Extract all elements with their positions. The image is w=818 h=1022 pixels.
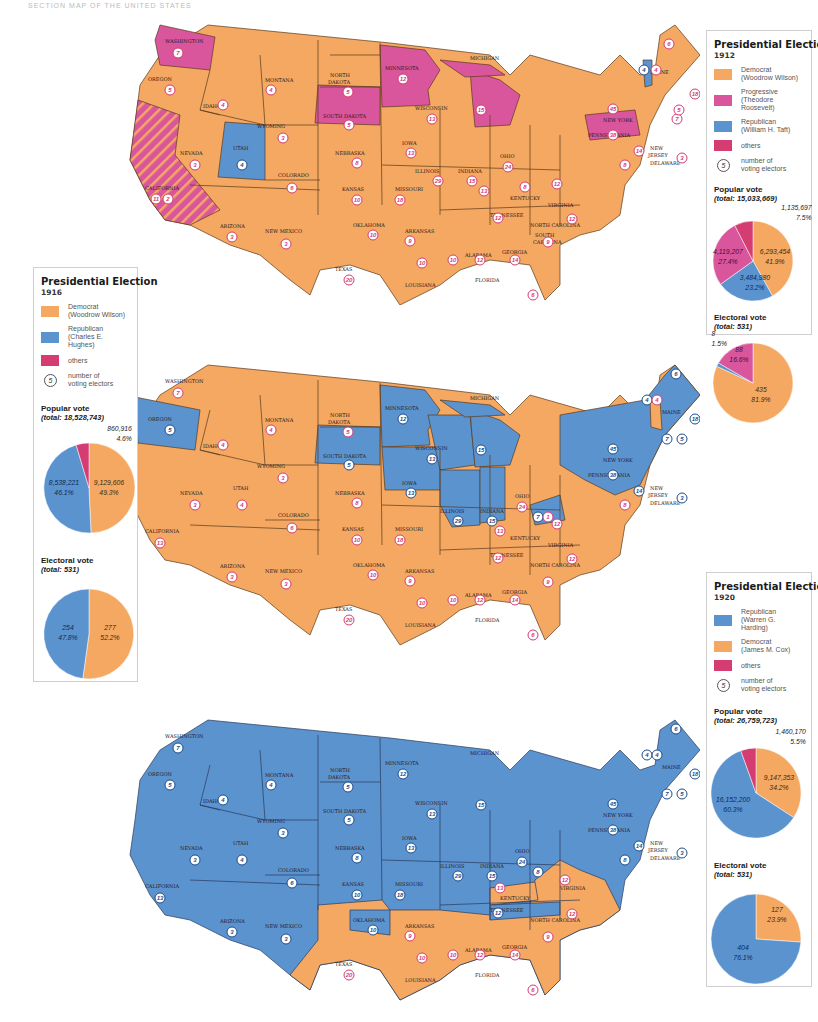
svg-text:45: 45 — [609, 106, 617, 112]
legend-sublabel: (Charles E. Hughes) — [68, 333, 130, 349]
page-header: SECTION MAP OF THE UNITED STATES — [28, 2, 192, 9]
svg-text:10: 10 — [419, 600, 426, 606]
legend-item-progressive: Progressive(Theodore Roosevelt) — [714, 88, 804, 112]
svg-text:KANSAS: KANSAS — [342, 526, 365, 532]
svg-text:13: 13 — [429, 456, 436, 462]
svg-text:13: 13 — [497, 885, 504, 891]
svg-text:15: 15 — [478, 107, 485, 113]
svg-text:KENTUCKY: KENTUCKY — [510, 195, 541, 201]
electoral-vote-pie-1920: 12723.9% 40476.1% — [714, 883, 804, 983]
legend-label: others — [68, 357, 87, 365]
pie-label: 49.3% — [89, 488, 128, 498]
svg-text:12: 12 — [569, 216, 576, 222]
svg-text:15: 15 — [489, 873, 496, 879]
svg-text:IOWA: IOWA — [402, 480, 417, 486]
others-swatch — [714, 660, 732, 671]
svg-text:INDIANA: INDIANA — [458, 168, 482, 174]
svg-text:13: 13 — [157, 895, 164, 901]
svg-text:4: 4 — [641, 67, 646, 73]
svg-text:4: 4 — [239, 502, 244, 508]
svg-text:10: 10 — [354, 197, 361, 203]
svg-text:UTAH: UTAH — [233, 840, 249, 846]
popular-vote-title: Popular vote — [41, 404, 130, 413]
legend-item-republican: Republican(Warren G. Harding) — [714, 608, 804, 632]
svg-text:OHIO: OHIO — [515, 493, 530, 499]
svg-text:LOUISIANA: LOUISIANA — [405, 282, 436, 288]
svg-text:MONTANA: MONTANA — [265, 417, 294, 423]
svg-text:ILLINOIS: ILLINOIS — [440, 863, 465, 869]
legend-title: Presidential Election — [714, 39, 804, 50]
popular-vote-pie-1912: 1,135,6977.5% 6,293,45441.9% 3,484,98023… — [714, 207, 804, 299]
svg-text:COLORADO: COLORADO — [278, 512, 309, 518]
svg-text:DELAWARE: DELAWARE — [650, 160, 681, 166]
svg-text:10: 10 — [450, 952, 457, 958]
svg-text:JERSEY: JERSEY — [647, 847, 668, 854]
electoral-vote-pie-1912: 81.5% 8816.6% 43581.9% — [714, 335, 804, 405]
pie-label: 277 — [97, 623, 123, 633]
svg-text:NEW YORK: NEW YORK — [603, 812, 633, 818]
svg-text:MISSOURI: MISSOURI — [395, 526, 423, 532]
pie-label: 4.6% — [85, 434, 132, 444]
legend-label: Republican — [68, 325, 130, 333]
svg-text:13: 13 — [157, 540, 164, 546]
svg-text:2: 2 — [165, 196, 170, 202]
svg-text:24: 24 — [518, 504, 526, 510]
svg-text:10: 10 — [419, 955, 426, 961]
legend-item-others: others — [714, 660, 804, 671]
svg-text:OREGON: OREGON — [148, 76, 173, 82]
svg-text:CALIFORNIA: CALIFORNIA — [145, 883, 179, 889]
svg-text:MONTANA: MONTANA — [265, 77, 294, 83]
svg-text:ILLINOIS: ILLINOIS — [415, 168, 440, 174]
svg-text:GEORGIA: GEORGIA — [502, 944, 527, 950]
svg-text:4: 4 — [220, 102, 225, 108]
pie-label: 254 — [55, 623, 81, 633]
legend-sublabel: (William H. Taft) — [741, 126, 790, 134]
svg-text:ARKANSAS: ARKANSAS — [404, 923, 435, 929]
legend-item-democrat: Democrat(Woodrow Wilson) — [714, 66, 804, 82]
svg-text:4: 4 — [654, 397, 659, 403]
svg-text:10: 10 — [450, 257, 457, 263]
svg-text:4: 4 — [654, 752, 659, 758]
svg-text:WASHINGTON: WASHINGTON — [165, 378, 204, 384]
svg-text:OKLAHOMA: OKLAHOMA — [353, 222, 385, 228]
svg-text:15: 15 — [489, 518, 496, 524]
legend-sublabel: (Woodrow Wilson) — [741, 74, 798, 82]
svg-text:29: 29 — [434, 178, 442, 184]
svg-text:NEW YORK: NEW YORK — [603, 117, 633, 123]
svg-text:12: 12 — [477, 952, 484, 958]
electoral-vote-pie-1916: 25447.8% 27752.2% — [41, 578, 130, 678]
svg-text:18: 18 — [397, 892, 404, 898]
svg-text:TEXAS: TEXAS — [335, 266, 353, 272]
svg-text:13: 13 — [429, 811, 436, 817]
svg-text:24: 24 — [504, 164, 512, 170]
svg-text:DAKOTA: DAKOTA — [328, 419, 350, 425]
svg-text:COLORADO: COLORADO — [278, 172, 309, 178]
svg-text:12: 12 — [400, 76, 407, 82]
elector-circle-icon: 5 — [717, 679, 730, 692]
svg-text:NEW MEXICO: NEW MEXICO — [265, 568, 302, 574]
pie-label: 6,293,454 — [755, 247, 794, 257]
svg-text:14: 14 — [636, 148, 643, 154]
legend-sublabel: voting electors — [68, 380, 113, 388]
svg-text:OHIO: OHIO — [515, 848, 530, 854]
republican-swatch — [714, 121, 732, 132]
svg-text:MICHIGAN: MICHIGAN — [470, 750, 500, 756]
pie-label: 5.5% — [758, 737, 806, 747]
svg-text:15: 15 — [469, 178, 476, 184]
svg-text:ARIZONA: ARIZONA — [219, 918, 245, 924]
svg-text:MISSOURI: MISSOURI — [395, 881, 423, 887]
republican-swatch — [714, 615, 732, 626]
svg-text:4: 4 — [220, 797, 225, 803]
svg-text:ILLINOIS: ILLINOIS — [440, 508, 465, 514]
svg-text:20: 20 — [345, 617, 353, 623]
popular-vote-total: (total: 26,759,723) — [714, 716, 804, 725]
pie-label: 435 — [748, 385, 774, 395]
map-1912: WASHINGTON OREGON IDAHO MONTANA NORTH DA… — [60, 15, 700, 305]
pie-label: 4,119,207 — [709, 247, 746, 257]
svg-text:18: 18 — [692, 416, 699, 422]
svg-text:NEVADA: NEVADA — [180, 845, 203, 851]
svg-text:12: 12 — [569, 556, 576, 562]
svg-text:13: 13 — [408, 845, 415, 851]
legend-item-electors: 5 number ofvoting electors — [714, 157, 804, 173]
svg-text:ARKANSAS: ARKANSAS — [404, 228, 435, 234]
